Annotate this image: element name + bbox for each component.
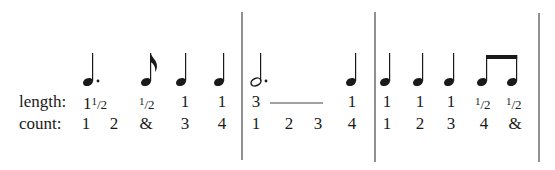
length-value: 1	[181, 93, 190, 110]
count-value: 4	[480, 115, 489, 132]
count-value: 2	[416, 115, 425, 132]
eighth-note-icon	[140, 53, 157, 88]
length-value: 1	[383, 93, 392, 110]
length-row-label: length:	[19, 93, 66, 110]
dotted-half-note-icon	[250, 53, 268, 87]
count-value: 3	[181, 115, 190, 132]
count-value: 2	[285, 115, 294, 132]
beamed-eighth-notes-icon	[476, 55, 519, 88]
length-value: 1/2	[139, 93, 155, 113]
count-value: 1	[82, 115, 91, 132]
count-row-label: count:	[19, 115, 62, 132]
length-value: 1	[348, 93, 357, 110]
count-value: 2	[110, 115, 119, 132]
count-value: &	[139, 115, 152, 132]
quarter-note-icon	[443, 53, 456, 88]
quarter-note-icon	[345, 53, 358, 88]
length-value: 1/2	[506, 93, 522, 113]
rhythm-diagram: length: count: 11/2 1/2 1 1 3 1 1 1 1 1/…	[0, 0, 555, 170]
length-value: 3	[252, 93, 261, 110]
quarter-note-icon	[379, 53, 392, 88]
count-value: 4	[348, 115, 357, 132]
quarter-note-icon	[175, 53, 188, 88]
length-value: 1	[447, 93, 456, 110]
count-value: 3	[447, 115, 456, 132]
length-value: 1/2	[475, 93, 491, 113]
quarter-note-icon	[213, 53, 226, 88]
notation-graphics	[0, 0, 555, 170]
length-value: 1	[416, 93, 425, 110]
count-value: 1	[383, 115, 392, 132]
quarter-note-icon	[412, 53, 425, 88]
length-value: 11/2	[83, 93, 107, 113]
dotted-quarter-note-icon	[82, 53, 100, 88]
length-value: 1	[218, 93, 227, 110]
count-value: 3	[314, 115, 323, 132]
count-value: 1	[252, 115, 261, 132]
count-value: &	[508, 115, 521, 132]
count-value: 4	[218, 115, 227, 132]
